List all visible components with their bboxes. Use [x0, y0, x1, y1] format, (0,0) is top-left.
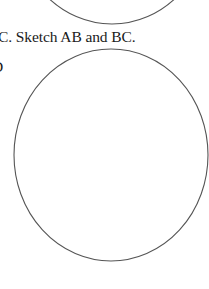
question-text: C. Sketch AB and BC.: [0, 28, 136, 46]
point-label-fragment: D: [0, 58, 3, 76]
top-circle-outline: [15, 0, 209, 24]
main-circle-outline: [14, 49, 208, 261]
